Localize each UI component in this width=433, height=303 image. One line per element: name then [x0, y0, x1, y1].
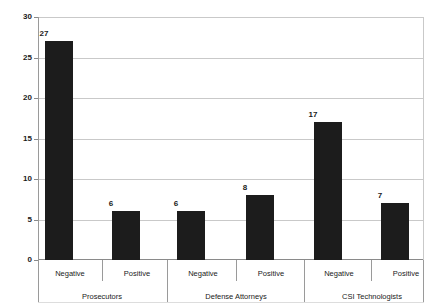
gridline-20 [39, 98, 423, 99]
bar-value-label-defense-negative: 6 [156, 200, 196, 208]
y-tick-label-15: 15 [6, 135, 32, 143]
bar-chart: 30 25 20 15 10 5 0 27 6 6 8 17 7 Negativ… [0, 0, 433, 303]
gridline-10 [39, 179, 423, 180]
bar-defense-negative [177, 211, 205, 260]
y-tick-label-20: 20 [6, 94, 32, 102]
gridline-30 [39, 17, 423, 18]
bar-csi-positive [381, 203, 409, 260]
cat-tick-1 [102, 260, 103, 281]
bar-defense-positive [246, 195, 274, 260]
category-axis-tier2: Prosecutors Defense Attorneys CSI Techno… [38, 281, 424, 303]
bar-csi-negative [314, 122, 342, 260]
bar-value-label-csi-negative: 17 [293, 111, 333, 119]
gridline-5 [39, 220, 423, 221]
y-tick-label-30: 30 [6, 13, 32, 21]
category-axis: Negative Positive Negative Positive Nega… [38, 260, 424, 303]
bar-value-label-prosecutors-positive: 6 [91, 200, 131, 208]
bar-prosecutors-negative [45, 41, 73, 260]
gridline-15 [39, 139, 423, 140]
plot-area [38, 17, 424, 260]
bar-value-label-prosecutors-negative: 27 [24, 30, 64, 38]
cat-tick-5 [371, 260, 372, 281]
bar-value-label-defense-positive: 8 [225, 184, 265, 192]
group-label-defense-attorneys: Defense Attorneys [192, 293, 280, 301]
y-tick-label-25: 25 [6, 54, 32, 62]
y-tick-label-10: 10 [6, 175, 32, 183]
cat-tick-3 [236, 260, 237, 281]
gridline-25 [39, 58, 423, 59]
bar-prosecutors-positive [112, 211, 140, 260]
category-axis-tier1: Negative Positive Negative Positive Nega… [38, 260, 424, 281]
group-label-csi-technologists: CSI Technologists [328, 293, 416, 301]
bar-value-label-csi-positive: 7 [360, 192, 400, 200]
y-tick-label-0: 0 [6, 256, 32, 264]
group-label-prosecutors: Prosecutors [58, 293, 146, 301]
y-tick-label-5: 5 [6, 216, 32, 224]
